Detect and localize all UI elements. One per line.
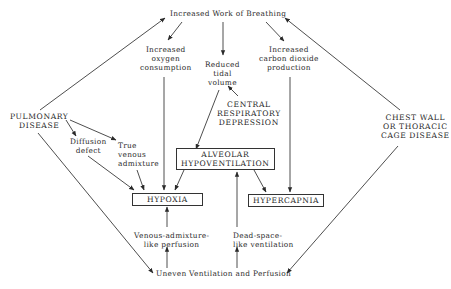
node-increased-oxygen-consumption: Increased oxygen consumption: [140, 45, 191, 73]
node-chest-wall-disease: CHEST WALL OR THORACIC CAGE DISEASE: [381, 113, 450, 141]
edge-work-to-co2: [266, 22, 284, 41]
node-reduced-tidal-volume: Reduced tidal volume: [205, 60, 240, 88]
node-diffusion-defect: Diffusion defect: [70, 137, 107, 155]
edge-alveolar-to-hypoxia: [175, 170, 184, 190]
node-dead-space-like-ventilation: Dead-space- like ventilation: [233, 231, 294, 249]
node-true-venous-admixture: True venous admixture: [118, 141, 159, 169]
edge-alveolar-to-hypercapnia: [254, 170, 266, 192]
node-increased-co2-production: Increased carbon dioxide production: [259, 45, 319, 73]
node-alveolar-hypoventilation: ALVEOLAR HYPOVENTILATION: [176, 148, 275, 170]
node-venous-admixture-like-perfusion: Venous-admixture- like perfusion: [134, 231, 209, 249]
edge-venous-to-hypoxia: [137, 170, 144, 190]
diagram-edges: [0, 0, 451, 289]
node-pulmonary-disease: PULMONARY DISEASE: [10, 112, 68, 130]
edge-work-to-oxygen: [168, 22, 182, 40]
node-increased-work-of-breathing: Increased Work of Breathing: [170, 9, 286, 18]
node-uneven-ventilation-and-perfusion: Uneven Ventilation and Perfusion: [156, 269, 291, 278]
node-central-respiratory-depression: CENTRAL RESPIRATORY DEPRESSION: [217, 100, 281, 128]
node-hypercapnia: HYPERCAPNIA: [248, 194, 324, 207]
edge-tidal-to-alveolar: [196, 90, 219, 149]
node-hypoxia: HYPOXIA: [132, 193, 203, 206]
edge-chest-to-uneven: [287, 146, 398, 273]
